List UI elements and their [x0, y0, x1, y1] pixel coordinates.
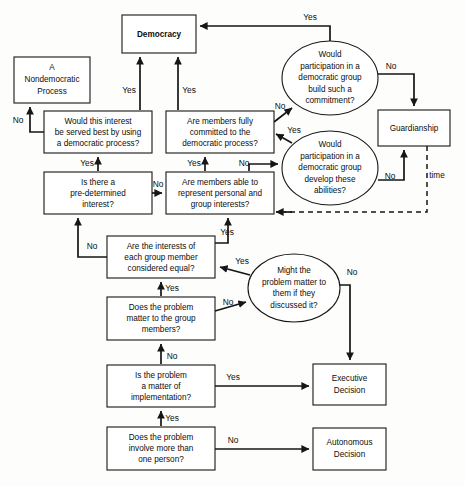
node-build-commitment-line3: democratic group	[298, 73, 362, 82]
node-interests-equal-line3: considered equal?	[128, 264, 195, 273]
edge-label-guardianship-time: time	[429, 171, 445, 180]
node-members-committed-line3: democratic process?	[182, 139, 258, 148]
node-interest-served[interactable]: Would this interest be served best by us…	[44, 111, 152, 153]
edge-interest-to-nondemocratic	[30, 107, 44, 132]
node-interests-equal-line1: Are the interests of	[127, 242, 196, 251]
node-might-matter-line3: them if they	[273, 289, 316, 298]
edge-build-to-guardianship	[378, 74, 414, 106]
node-develop-abilities-line4: develop these	[305, 175, 356, 184]
node-executive-line2: Decision	[334, 386, 366, 395]
node-might-matter-line4: discussed it?	[270, 301, 318, 310]
edge-able-to-develop	[249, 164, 278, 171]
node-problem-matter-line3: members?	[142, 325, 181, 334]
node-develop-abilities-line2: participation in a	[300, 152, 360, 161]
node-nondemocratic-line2: Nondemocratic	[24, 75, 79, 84]
node-predetermined-line1: Is there a	[81, 178, 116, 187]
node-interest-served-line3: a democratic process?	[57, 139, 140, 148]
node-members-able-line3: group interests?	[191, 200, 250, 209]
edge-might-to-executive	[340, 285, 350, 360]
edge-label-implementation-to-executive: Yes	[226, 372, 240, 382]
node-nondemocratic-process[interactable]: A Nondemocratic Process	[14, 57, 90, 103]
node-might-matter-line1: Might the	[277, 266, 311, 275]
edge-label-equal-to-able: Yes	[220, 227, 234, 237]
edge-label-equal-to-predetermined: No	[87, 241, 98, 251]
node-develop-abilities-line1: Would	[318, 140, 342, 149]
node-predetermined-line2: pre-determined	[70, 189, 126, 198]
node-nondemocratic-line3: Process	[37, 87, 67, 96]
node-autonomous-line1: Autonomous	[327, 438, 373, 447]
node-more-than-one-line3: one person?	[138, 455, 184, 464]
node-develop-abilities[interactable]: Would participation in a democratic grou…	[282, 131, 378, 205]
edge-label-predetermined-to-interest: Yes	[80, 158, 94, 168]
node-guardianship[interactable]: Guardianship	[378, 110, 450, 146]
node-democracy[interactable]: Democracy	[122, 15, 196, 53]
edge-might-to-equal	[220, 267, 250, 275]
node-implementation-line1: Is the problem	[135, 371, 187, 380]
edge-label-matter-to-might: No	[223, 297, 234, 307]
node-interest-served-line1: Would this interest	[64, 117, 132, 126]
edge-label-develop-to-guardianship: No	[385, 171, 396, 181]
node-problem-matter-line2: matter to the group	[126, 314, 196, 323]
node-executive-decision[interactable]: Executive Decision	[313, 364, 386, 405]
node-autonomous-line2: Decision	[334, 450, 366, 459]
edge-label-committed-to-build: No	[275, 101, 286, 111]
node-autonomous-decision[interactable]: Autonomous Decision	[313, 428, 386, 470]
node-build-commitment-line4: build such a	[308, 85, 352, 94]
node-interests-equal[interactable]: Are the interests of each group member c…	[107, 236, 215, 278]
node-predetermined-line3: interest?	[82, 200, 114, 209]
node-might-matter-line2: problem matter to	[262, 278, 327, 287]
node-executive-line1: Executive	[332, 374, 368, 383]
edge-label-morethanone-to-implementation: Yes	[165, 413, 179, 423]
node-members-able[interactable]: Are members able to represent personal a…	[166, 172, 274, 214]
edge-label-might-to-equal: Yes	[235, 256, 249, 266]
node-nondemocratic-line1: A	[49, 63, 55, 72]
edge-label-matter-to-equal: Yes	[165, 283, 179, 293]
edge-label-committed-to-democracy: Yes	[182, 85, 196, 95]
node-predetermined-interest[interactable]: Is there a pre-determined interest?	[44, 172, 152, 214]
flowchart-canvas: Democracy A Nondemocratic Process Would …	[0, 0, 465, 486]
node-guardianship-label: Guardianship	[390, 124, 439, 133]
edge-label-develop-to-committed: Yes	[287, 125, 301, 135]
flowchart-diagram: Democracy A Nondemocratic Process Would …	[0, 0, 465, 486]
node-implementation[interactable]: Is the problem a matter of implementatio…	[107, 365, 215, 407]
node-develop-abilities-line5: abilities?	[314, 186, 346, 195]
edge-label-build-to-guardianship: No	[386, 61, 397, 71]
edge-label-interest-to-democracy: Yes	[122, 85, 136, 95]
node-interests-equal-line2: each group member	[124, 253, 198, 262]
node-more-than-one-line2: involve more than	[129, 444, 194, 453]
node-members-committed[interactable]: Are members fully committed to the democ…	[166, 111, 274, 153]
edge-label-interest-to-nondemocratic: No	[13, 115, 24, 125]
node-problem-matter-line1: Does the problem	[129, 303, 194, 312]
node-might-matter[interactable]: Might the problem matter to them if they…	[248, 254, 340, 322]
node-members-committed-line2: committed to the	[190, 128, 251, 137]
node-implementation-line3: implementation?	[131, 393, 192, 402]
edge-label-might-to-executive: No	[347, 267, 358, 277]
node-build-commitment[interactable]: Would participation in a democratic grou…	[282, 41, 378, 115]
edge-label-implementation-to-matter: No	[167, 351, 178, 361]
node-develop-abilities-line3: democratic group	[298, 163, 362, 172]
node-build-commitment-line2: participation in a	[300, 62, 360, 71]
node-build-commitment-line1: Would	[318, 50, 342, 59]
edge-label-build-to-democracy: Yes	[303, 12, 317, 22]
node-members-able-line2: represent personal and	[178, 189, 263, 198]
node-problem-matter[interactable]: Does the problem matter to the group mem…	[107, 297, 215, 340]
edge-label-able-to-committed: Yes	[187, 158, 201, 168]
edge-label-predetermined-to-able: No	[153, 179, 164, 189]
node-more-than-one-person[interactable]: Does the problem involve more than one p…	[107, 427, 215, 470]
node-interest-served-line2: be served best by using	[55, 128, 142, 137]
node-members-able-line1: Are members able to	[182, 178, 258, 187]
edge-label-morethanone-to-autonomous: No	[228, 435, 239, 445]
node-build-commitment-line5: commitment?	[305, 96, 355, 105]
edge-label-able-to-develop: No	[239, 158, 250, 168]
node-implementation-line2: a matter of	[141, 382, 181, 391]
node-members-committed-line1: Are members fully	[187, 117, 254, 126]
node-democracy-label: Democracy	[137, 30, 182, 39]
node-more-than-one-line1: Does the problem	[129, 433, 194, 442]
edge-build-to-democracy	[200, 26, 330, 41]
edge-develop-to-committed	[276, 134, 292, 143]
